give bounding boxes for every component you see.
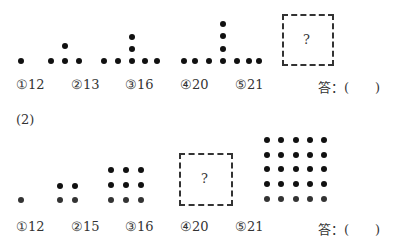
dot <box>220 46 226 52</box>
dot <box>307 137 313 143</box>
dot <box>123 197 129 203</box>
dot <box>129 46 135 52</box>
dot <box>18 58 24 64</box>
option-4: ④20 <box>180 219 209 234</box>
dot <box>192 58 198 64</box>
dot <box>264 196 270 202</box>
option-2: ②15 <box>71 219 100 234</box>
unknown-figure-box: ? <box>179 153 233 206</box>
dot <box>142 58 148 64</box>
dot <box>129 58 135 64</box>
dot <box>123 167 129 173</box>
dot <box>72 197 78 203</box>
question-mark: ? <box>303 32 310 47</box>
dot <box>307 181 313 187</box>
dot <box>321 137 327 143</box>
dot <box>181 58 187 64</box>
question-mark: ? <box>201 171 208 186</box>
dot <box>307 166 313 172</box>
dot <box>307 152 313 158</box>
dot <box>293 137 299 143</box>
dot <box>206 58 212 64</box>
option-3: ③16 <box>125 77 154 92</box>
dot <box>293 152 299 158</box>
dot <box>256 58 262 64</box>
option-3: ③16 <box>125 219 154 234</box>
dot <box>48 58 54 64</box>
dot <box>115 58 121 64</box>
option-4: ④20 <box>180 77 209 92</box>
dot <box>321 152 327 158</box>
dot <box>278 196 284 202</box>
dot <box>220 21 226 27</box>
unknown-figure-box: ? <box>282 14 334 66</box>
dot <box>321 181 327 187</box>
dot <box>321 166 327 172</box>
option-5: ⑤21 <box>235 77 264 92</box>
option-2: ②13 <box>71 77 100 92</box>
option-1: ①12 <box>16 219 45 234</box>
dot <box>129 34 135 40</box>
dot <box>293 196 299 202</box>
dot <box>62 43 68 49</box>
dot <box>293 166 299 172</box>
dot <box>138 197 144 203</box>
dot <box>307 196 313 202</box>
dot <box>123 182 129 188</box>
dot <box>234 58 240 64</box>
problem-2-number: (2) <box>16 112 34 127</box>
dot <box>154 58 160 64</box>
dot <box>278 166 284 172</box>
option-1: ①12 <box>16 77 45 92</box>
dot <box>57 197 63 203</box>
dot <box>138 167 144 173</box>
dot <box>62 58 68 64</box>
dot <box>18 197 24 203</box>
dot <box>72 183 78 189</box>
dot <box>321 196 327 202</box>
dot <box>108 182 114 188</box>
dot <box>264 181 270 187</box>
dot <box>264 137 270 143</box>
dot <box>108 197 114 203</box>
answer-blank[interactable]: 答：( ) <box>318 219 380 238</box>
dot <box>278 181 284 187</box>
dot <box>138 182 144 188</box>
dot <box>108 167 114 173</box>
dot <box>278 137 284 143</box>
dot <box>57 183 63 189</box>
option-5: ⑤21 <box>235 219 264 234</box>
dot <box>76 58 82 64</box>
dot <box>293 181 299 187</box>
dot <box>264 152 270 158</box>
dot <box>246 58 252 64</box>
dot <box>220 58 226 64</box>
dot <box>220 33 226 39</box>
answer-blank[interactable]: 答：( ) <box>318 77 380 96</box>
dot <box>101 58 107 64</box>
dot <box>278 152 284 158</box>
dot <box>264 166 270 172</box>
